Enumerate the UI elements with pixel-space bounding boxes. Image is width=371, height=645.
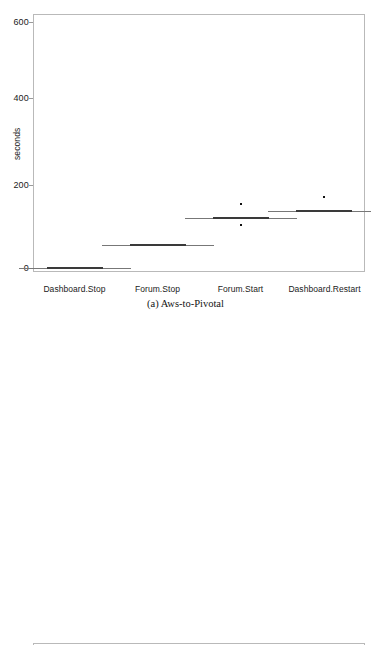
y-tick-600-a: 600 xyxy=(3,17,29,27)
boxplot-figure: seconds 600 400 200 0 Dashboard.Stop For… xyxy=(0,0,371,645)
boxplot-whisker-arm xyxy=(352,211,371,212)
boxplot-box-collapsed xyxy=(213,217,269,219)
boxplot-outlier-point xyxy=(323,196,325,198)
y-tickmark-400-a xyxy=(29,98,33,99)
panel-aws-to-pivotal: seconds 600 400 200 0 Dashboard.Stop For… xyxy=(0,0,371,312)
boxplot-whisker-arm xyxy=(268,211,296,212)
boxplot-whisker-arm xyxy=(185,218,213,219)
y-axis-label-a: seconds xyxy=(12,128,22,160)
boxplot-whisker-arm xyxy=(102,245,130,246)
boxplot-outlier-point xyxy=(240,224,242,226)
boxplot-whisker-arm xyxy=(269,218,297,219)
y-tickmark-600-a xyxy=(29,22,33,23)
panel-caption-a: (a) Aws-to-Pivotal xyxy=(0,298,371,309)
panel-pivotal-to-aws: seconds 600 400 200 0 Dashboard.Stop For… xyxy=(0,312,371,645)
x-tick-label-a-0: Dashboard.Stop xyxy=(33,284,116,294)
boxplot-box-collapsed xyxy=(47,267,103,269)
x-tick-label-a-2: Forum.Start xyxy=(199,284,282,294)
x-tick-label-a-1: Forum.Stop xyxy=(116,284,199,294)
boxplot-box-collapsed xyxy=(130,244,186,246)
x-tick-label-a-3: Dashboard.Restart xyxy=(282,284,367,294)
plot-area-a xyxy=(33,14,365,272)
boxplot-whisker-arm xyxy=(103,268,131,269)
y-tick-200-a: 200 xyxy=(3,180,29,190)
y-tickmark-200-a xyxy=(29,185,33,186)
boxplot-box-collapsed xyxy=(296,210,352,212)
y-tick-400-a: 400 xyxy=(3,93,29,103)
boxplot-whisker-arm xyxy=(19,268,47,269)
boxplot-whisker-arm xyxy=(186,245,214,246)
boxplot-outlier-point xyxy=(240,203,242,205)
